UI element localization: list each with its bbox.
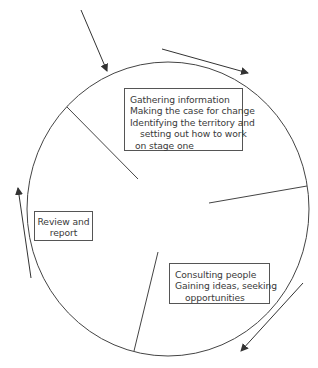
divider-right	[209, 186, 307, 203]
stage-text: Gathering information	[130, 94, 242, 105]
stage-text: Identifying the territory and	[130, 117, 242, 128]
stage-box-gathering-information: Gathering information Making the case fo…	[124, 88, 243, 151]
stage-text: report	[35, 227, 92, 238]
stage-box-consulting-people: Consulting people Gaining ideas, seeking…	[169, 263, 270, 304]
stage-text: Review and	[35, 216, 92, 227]
stage-text: on stage one	[130, 140, 242, 151]
stage-text: Consulting people	[175, 269, 269, 280]
entry-arrow-icon	[81, 10, 107, 71]
stage-box-review-and-report: Review and report	[34, 211, 93, 241]
clockwise-top-arrow-icon	[162, 49, 248, 73]
cycle-diagram	[0, 0, 318, 368]
divider-bottom	[134, 252, 158, 351]
stage-text: setting out how to work	[130, 128, 242, 139]
stage-text: Gaining ideas, seeking	[175, 280, 269, 291]
stage-text: opportunities	[175, 292, 269, 303]
stage-text: Making the case for change	[130, 105, 242, 116]
